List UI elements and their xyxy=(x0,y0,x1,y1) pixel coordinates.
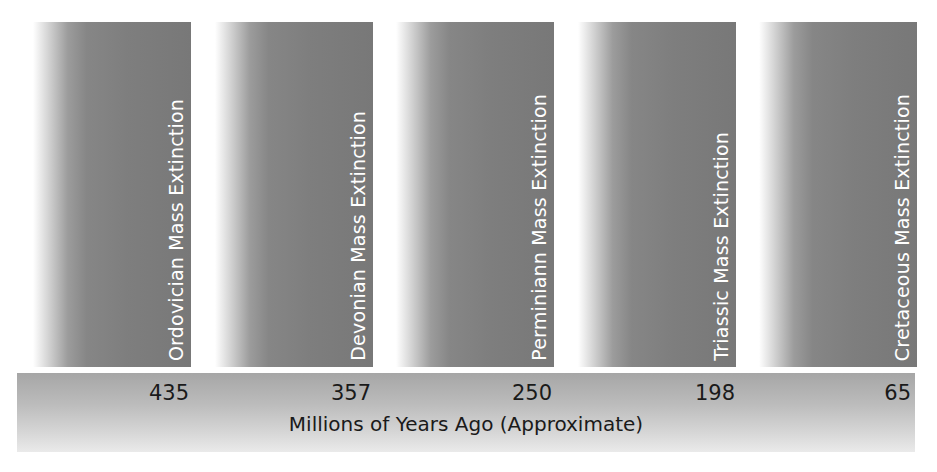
bar-label: Triassic Mass Extinction xyxy=(710,132,732,361)
extinction-bar-triassic: Triassic Mass Extinction xyxy=(578,22,736,367)
bar-label: Devonian Mass Extinction xyxy=(347,111,369,361)
year-label-ordovician: 435 xyxy=(109,381,189,405)
extinction-bar-ordovician: Ordovician Mass Extinction xyxy=(33,22,191,367)
axis-title: Millions of Years Ago (Approximate) xyxy=(17,412,915,436)
bar-label: Perminiann Mass Extinction xyxy=(528,94,550,361)
extinction-bar-permian: Perminiann Mass Extinction xyxy=(396,22,554,367)
bar-label: Cretaceous Mass Extinction xyxy=(891,94,913,361)
extinction-bar-cretaceous: Cretaceous Mass Extinction xyxy=(759,22,917,367)
year-label-permian: 250 xyxy=(472,381,552,405)
timeline-axis-band: 435 357 250 198 65 Millions of Years Ago… xyxy=(17,373,915,452)
extinction-bar-devonian: Devonian Mass Extinction xyxy=(215,22,373,367)
year-label-devonian: 357 xyxy=(291,381,371,405)
year-label-triassic: 198 xyxy=(655,381,735,405)
year-label-cretaceous: 65 xyxy=(831,381,911,405)
bar-label: Ordovician Mass Extinction xyxy=(165,99,187,361)
